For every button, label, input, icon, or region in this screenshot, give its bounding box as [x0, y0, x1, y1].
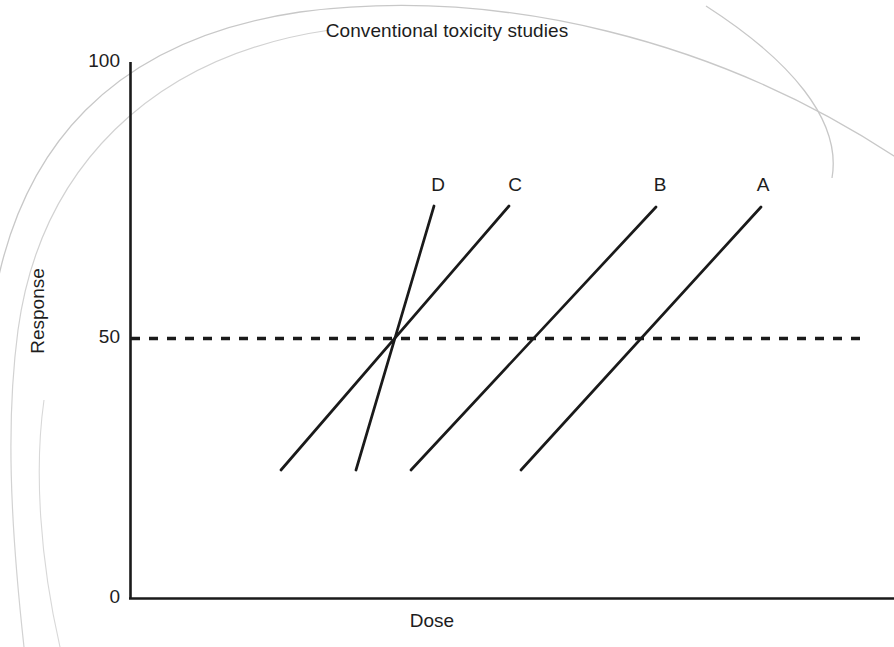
series-label-A: A: [748, 174, 778, 196]
series-label-C: C: [500, 174, 530, 196]
series-label-B: B: [645, 174, 675, 196]
plot-area: [0, 0, 894, 647]
y-tick-label-50: 50: [62, 326, 120, 348]
y-tick-label-0: 0: [62, 586, 120, 608]
y-axis-title: Response: [27, 263, 49, 359]
y-tick-label-100: 100: [62, 50, 120, 72]
figure-conventional-toxicity-studies: Conventional toxicity studies 100 50 0 R…: [0, 0, 894, 647]
x-axis-title: Dose: [0, 610, 864, 632]
series-label-D: D: [423, 174, 453, 196]
chart-title: Conventional toxicity studies: [0, 20, 894, 42]
